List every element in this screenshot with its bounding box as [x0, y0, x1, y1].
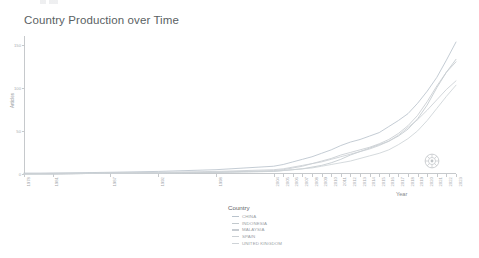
series-line [24, 62, 456, 174]
x-tick-label: 2007 [304, 177, 309, 187]
top-edge-artifact [40, 0, 58, 4]
legend-item-label: SPAIN [242, 234, 255, 239]
circular-logo-watermark-icon [421, 150, 443, 172]
legend-items: CHINAINDONESIAMALAYSIASPAINUNITED KINGDO… [228, 214, 358, 247]
legend-swatch-icon [232, 243, 239, 244]
legend-item-label: MALAYSIA [242, 227, 264, 232]
x-tick-mark [456, 174, 457, 177]
x-tick-label: 1987 [112, 177, 117, 187]
x-tick-label: 2013 [362, 177, 367, 187]
legend-swatch-icon [232, 236, 239, 237]
series-line [24, 42, 456, 173]
x-tick-label: 1998 [218, 177, 223, 187]
x-tick-label: 2010 [333, 177, 338, 187]
x-tick-mark [216, 174, 217, 177]
x-tick-mark [360, 174, 361, 177]
x-axis-title: Year [396, 191, 407, 197]
legend-item[interactable]: MALAYSIA [232, 227, 358, 234]
legend-item[interactable]: CHINA [232, 214, 358, 221]
x-tick-label: 1981 [54, 177, 59, 187]
series-line [24, 85, 456, 174]
x-tick-label: 2006 [294, 177, 299, 187]
y-tick-label: 0 [19, 172, 21, 177]
x-tick-label: 1992 [160, 177, 165, 187]
x-tick-label: 2019 [419, 177, 424, 187]
x-tick-label: 2015 [381, 177, 386, 187]
series-line [24, 81, 456, 174]
legend-item[interactable]: SPAIN [232, 233, 358, 240]
page-title: Country Production over Time [24, 14, 179, 26]
x-tick-label: 2022 [448, 177, 453, 187]
x-tick-label: 2004 [275, 177, 280, 187]
legend-swatch-icon [232, 229, 239, 230]
x-tick-label: 2021 [438, 177, 443, 187]
x-tick-label: 2009 [323, 177, 328, 187]
legend-swatch-icon [232, 216, 239, 217]
chart-page: Country Production over Time Articles 05… [0, 0, 479, 258]
x-tick-label: 2023 [458, 177, 463, 187]
x-tick-label: 2018 [410, 177, 415, 187]
x-tick-mark [312, 174, 313, 177]
x-tick-label: 2008 [314, 177, 319, 187]
y-tick-label: 100 [14, 85, 21, 90]
legend-item[interactable]: INDONESIA [232, 220, 358, 227]
legend: Country CHINAINDONESIAMALAYSIASPAINUNITE… [228, 204, 358, 246]
series-line [24, 59, 456, 174]
x-tick-label: 2012 [352, 177, 357, 187]
legend-item-label: CHINA [242, 214, 256, 219]
x-tick-label: 2011 [342, 177, 347, 186]
x-tick-label: 2020 [429, 177, 434, 187]
x-tick-label: 2016 [390, 177, 395, 187]
legend-item[interactable]: UNITED KINGDOM [232, 240, 358, 247]
legend-swatch-icon [232, 223, 239, 224]
legend-title: Country [228, 204, 358, 211]
y-tick-label: 150 [14, 42, 21, 47]
legend-item-label: INDONESIA [242, 221, 267, 226]
legend-item-label: UNITED KINGDOM [242, 241, 282, 246]
x-tick-label: 2017 [400, 177, 405, 187]
y-axis-title: Articles [10, 93, 15, 108]
plot-area: Articles 050100150 197819811987199219982… [24, 36, 456, 174]
x-tick-label: 2014 [371, 177, 376, 187]
y-tick-label: 50 [16, 128, 21, 133]
series-lines [24, 36, 456, 174]
x-tick-label: 1978 [26, 177, 31, 187]
x-tick-label: 2005 [285, 177, 290, 187]
x-tick-mark [408, 174, 409, 177]
